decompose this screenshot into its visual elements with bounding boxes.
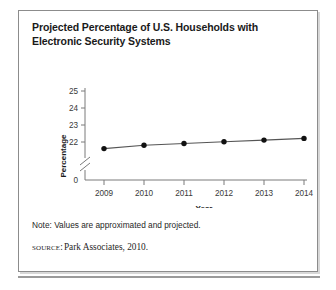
y-tick-label-0: 0 <box>73 176 78 185</box>
figure-title: Projected Percentage of U.S. Households … <box>32 21 294 48</box>
data-point-2014 <box>301 136 306 141</box>
source-value: Park Associates, 2010. <box>64 242 148 252</box>
source-label: Source: <box>32 242 63 252</box>
data-point-2013 <box>261 137 266 142</box>
figure-container: Projected Percentage of U.S. Households … <box>18 10 318 272</box>
figure-source: Source:Park Associates, 2010. <box>32 242 148 252</box>
x-tick-label-2012: 2012 <box>215 189 234 198</box>
y-tick-label-24: 24 <box>69 104 79 113</box>
x-tick-label-2009: 2009 <box>95 189 114 198</box>
data-point-2010 <box>141 143 146 148</box>
figure-note: Note: Values are approximated and projec… <box>32 220 201 230</box>
data-point-2011 <box>181 141 186 146</box>
y-tick-label-23: 23 <box>69 121 79 130</box>
x-axis-label: Year <box>196 204 213 208</box>
x-tick-label-2011: 2011 <box>175 189 193 198</box>
figure-title-line-1: Projected Percentage of U.S. Households … <box>32 21 294 35</box>
data-point-2009 <box>101 146 106 151</box>
axis-break-icon <box>80 157 90 171</box>
y-tick-label-22: 22 <box>69 138 79 147</box>
y-axis-label: Percentage <box>59 134 68 178</box>
data-point-2012 <box>221 139 226 144</box>
bottom-rule <box>18 276 320 278</box>
x-tick-label-2013: 2013 <box>255 189 274 198</box>
series-line-projected-percentage <box>104 138 304 148</box>
line-chart-svg: Percentage 25 24 23 22 0 <box>19 73 317 208</box>
x-tick-label-2014: 2014 <box>295 189 314 198</box>
chart-plot-area: Percentage 25 24 23 22 0 <box>19 73 317 208</box>
x-tick-label-2010: 2010 <box>135 189 154 198</box>
figure-title-line-2: Electronic Security Systems <box>32 35 294 49</box>
y-tick-label-25: 25 <box>69 87 79 96</box>
